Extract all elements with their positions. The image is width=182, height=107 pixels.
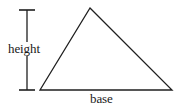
base-label: base <box>90 92 113 105</box>
triangle-shape <box>40 8 172 90</box>
triangle-figure: height base <box>0 0 182 107</box>
height-label: height <box>8 42 40 55</box>
